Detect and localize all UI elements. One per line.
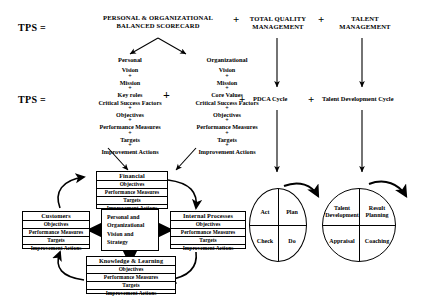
header-tqm-line2: MANAGEMENT bbox=[243, 23, 313, 31]
bsc-box-financial[interactable]: Financial Objectives Performance Measure… bbox=[96, 171, 168, 209]
pdca-quadrant-act: Act bbox=[252, 209, 278, 216]
talent-development-line1: Talent bbox=[325, 205, 359, 212]
talent-divider-horizontal bbox=[323, 225, 395, 226]
bsc-box-knowledge-learning[interactable]: Knowledge & Learning Objectives Performa… bbox=[86, 256, 176, 294]
financial-row-objectives: Objectives bbox=[97, 181, 167, 189]
internal-row-objectives: Objectives bbox=[171, 221, 245, 229]
customers-row-objectives: Objectives bbox=[23, 221, 89, 229]
customers-title: Customers bbox=[23, 212, 89, 221]
tps-label-top: TPS = bbox=[18, 22, 46, 33]
internal-row-improvement-actions: Improvement Actions bbox=[171, 245, 245, 252]
internal-row-performance-measures: Performance Measures bbox=[171, 229, 245, 237]
fork-arrow-personal bbox=[130, 38, 158, 54]
knowledge-learning-title: Knowledge & Learning bbox=[87, 257, 175, 266]
pdca-cycle-label: PDCA Cycle bbox=[253, 95, 287, 102]
header-tm-line2: MANAGEMENT bbox=[330, 23, 400, 31]
result-planning-line2: Planning bbox=[360, 212, 394, 219]
curve-customers-to-financial bbox=[58, 177, 84, 208]
bsc-box-internal-processes[interactable]: Internal Processes Objectives Performanc… bbox=[170, 211, 246, 249]
tps-label-mid: TPS = bbox=[18, 94, 46, 105]
plus-sign-1: + bbox=[233, 14, 239, 24]
pdca-quadrant-check: Check bbox=[252, 238, 278, 245]
curve-financial-to-internal bbox=[168, 180, 196, 208]
header-balanced-scorecard: PERSONAL & ORGANIZATIONAL BALANCED SCORE… bbox=[88, 14, 228, 30]
column-organizational-heading: Organizational bbox=[175, 56, 279, 63]
knowledge-row-targets: Targets bbox=[87, 282, 175, 290]
pdca-quadrant-plan: Plan bbox=[279, 209, 305, 216]
column-organizational: Organizational Vision + Mission + Core V… bbox=[175, 56, 279, 156]
knowledge-row-performance-measures: Performance Measures bbox=[87, 274, 175, 282]
plus-between-columns: + bbox=[163, 88, 170, 103]
customers-row-improvement-actions: Improvement Actions bbox=[23, 245, 89, 252]
knowledge-row-improvement-actions: Improvement Actions bbox=[87, 290, 175, 297]
customers-row-targets: Targets bbox=[23, 237, 89, 245]
internal-row-targets: Targets bbox=[171, 237, 245, 245]
plus-sign-mid-2: + bbox=[308, 94, 314, 104]
header-total-quality-management: TOTAL QUALITY MANAGEMENT bbox=[243, 15, 313, 31]
knowledge-row-objectives: Objectives bbox=[87, 266, 175, 274]
talent-quadrant-result-planning: Result Planning bbox=[360, 205, 394, 219]
bsc-box-customers[interactable]: Customers Objectives Performance Measure… bbox=[22, 211, 90, 249]
header-tqm-line1: TOTAL QUALITY bbox=[243, 15, 313, 23]
header-bsc-line1: PERSONAL & ORGANIZATIONAL bbox=[88, 14, 228, 22]
column-personal-heading: Personal bbox=[78, 56, 182, 63]
header-tm-line1: TALENT bbox=[330, 15, 400, 23]
internal-processes-title: Internal Processes bbox=[171, 212, 245, 221]
personal-item-improvement-actions: Improvement Actions bbox=[78, 148, 182, 155]
customers-row-performance-measures: Performance Measures bbox=[23, 229, 89, 237]
center-line-3: Vision and bbox=[107, 230, 158, 238]
financial-title: Financial bbox=[97, 172, 167, 181]
talent-quadrant-appraisal: Appraisal bbox=[325, 238, 359, 245]
result-planning-line1: Result bbox=[360, 205, 394, 212]
center-line-4: Strategy bbox=[107, 238, 158, 246]
fork-arrow-organizational bbox=[158, 38, 186, 54]
talent-cycle-label: Talent Development Cycle bbox=[322, 95, 393, 102]
talent-quadrant-coaching: Coaching bbox=[360, 238, 394, 245]
column-personal: Personal Vision + Mission + Key roles Cr… bbox=[78, 56, 182, 156]
pdca-quadrant-do: Do bbox=[279, 238, 305, 245]
plus-sign-2: + bbox=[318, 14, 324, 24]
center-line-2: Organizational bbox=[107, 221, 158, 229]
organizational-item-improvement-actions: Improvement Actions bbox=[175, 148, 279, 155]
financial-row-performance-measures: Performance Measures bbox=[97, 189, 167, 197]
header-bsc-line2: BALANCED SCORECARD bbox=[88, 22, 228, 30]
financial-row-targets: Targets bbox=[97, 197, 167, 205]
talent-development-line2: Development bbox=[325, 212, 359, 219]
header-talent-management: TALENT MANAGEMENT bbox=[330, 15, 400, 31]
center-line-1: Personal and bbox=[107, 213, 158, 221]
pdca-divider-horizontal bbox=[250, 225, 306, 226]
plus-sign-mid-1: + bbox=[239, 94, 245, 104]
talent-quadrant-talent-development: Talent Development bbox=[325, 205, 359, 219]
bsc-center-vision-strategy[interactable]: Personal and Organizational Vision and S… bbox=[101, 209, 159, 251]
curve-knowledge-to-customers bbox=[58, 252, 84, 280]
